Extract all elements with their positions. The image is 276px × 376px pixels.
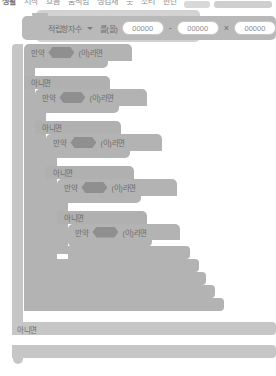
outer-if-else-block[interactable] [12,44,23,334]
else-bar-level-3[interactable]: 아니면 [46,166,134,179]
if-block-level-4[interactable]: 만약 (이)라면 [57,179,177,196]
set-to-label: 를(을) [100,23,118,34]
if-prefix-label-4: 만약 [64,182,77,193]
operator-2: × [223,23,230,33]
set-variable-block[interactable]: 적립항자수 를(을) 00000 - 00000 × 00000 로 정하기 [22,16,276,40]
outer-else-label: 아니면 [17,324,37,335]
condition-slot-2[interactable] [59,92,85,103]
if-block-body-cap-1[interactable] [24,61,108,68]
if-block-close-2[interactable] [35,285,215,298]
if-block-spine-1[interactable] [24,61,35,311]
else-bar-level-2[interactable]: 아니면 [35,121,121,134]
toolbar-item-4[interactable]: 생김새 [97,0,118,6]
chevron-down-icon[interactable] [87,27,93,30]
outer-block-foot [13,358,23,364]
if-prefix-label-2: 만약 [42,92,55,103]
if-block-close-3[interactable] [46,272,206,285]
if-prefix-label-3: 만약 [53,137,66,148]
if-prefix-label-1: 만약 [31,47,44,58]
block-editor-canvas[interactable]: 생활 시작 흐름 움직임 생김새 붓 소리 판단 적립항자수 를(을) 0000… [0,0,276,376]
else-label-2: 아니면 [42,122,62,133]
category-toolbar-items[interactable]: 생활 시작 흐름 움직임 생김새 붓 소리 판단 [2,0,177,6]
outer-block-bottom-bar[interactable] [12,345,276,358]
if-prefix-label-5: 만약 [75,227,88,238]
operand-input-1[interactable]: 00000 [122,21,164,35]
else-bar-level-4[interactable]: 아니면 [57,211,147,224]
else-label-4: 아니면 [64,212,84,223]
if-block-level-1[interactable]: 만약 (이)라면 [24,44,132,61]
toolbar-pill-secondary[interactable] [184,1,210,8]
if-block-body-cap-2[interactable] [35,106,119,113]
toolbar-item-7[interactable]: 판단 [163,0,177,6]
if-suffix-label-5: (이)라면 [122,227,147,238]
toolbar-item-0[interactable]: 생활 [2,0,16,6]
operator-1: - [168,23,173,33]
if-block-close-1[interactable] [24,298,224,311]
condition-slot-3[interactable] [70,137,96,148]
if-suffix-label-3: (이)라면 [100,137,125,148]
if-block-body-cap-3[interactable] [46,151,130,158]
toolbar-item-2[interactable]: 흐름 [46,0,60,6]
if-suffix-label-2: (이)라면 [89,92,114,103]
if-block-body-cap-4[interactable] [57,196,141,203]
else-label-1: 아니면 [31,77,51,88]
toolbar-item-3[interactable]: 움직임 [68,0,89,6]
toolbar-item-1[interactable]: 시작 [24,0,38,6]
if-block-level-2[interactable]: 만약 (이)라면 [35,89,147,106]
if-block-level-3[interactable]: 만약 (이)라면 [46,134,162,151]
condition-slot-5[interactable] [92,227,118,238]
operand-input-2[interactable]: 00000 [177,21,219,35]
toolbar-item-5[interactable]: 붓 [126,0,133,6]
condition-slot-4[interactable] [81,182,107,193]
toolbar-item-6[interactable]: 소리 [141,0,155,6]
condition-slot-1[interactable] [48,47,74,58]
operand-input-3[interactable]: 00000 [234,21,276,35]
toolbar-pill-primary[interactable] [214,1,272,8]
else-bar-level-1[interactable]: 아니면 [24,76,110,89]
if-block-spine-4[interactable] [57,196,68,254]
if-block-close-5[interactable] [68,246,190,259]
if-suffix-label-1: (이)라면 [78,47,103,58]
if-block-level-5[interactable]: 만약 (이)라면 [68,224,180,240]
if-block-close-4[interactable] [57,259,199,272]
outer-else-bar[interactable]: 아니면 [12,322,276,335]
if-suffix-label-4: (이)라면 [111,182,136,193]
variable-name-label[interactable]: 적립항자수 [48,23,82,34]
else-label-3: 아니면 [53,167,73,178]
